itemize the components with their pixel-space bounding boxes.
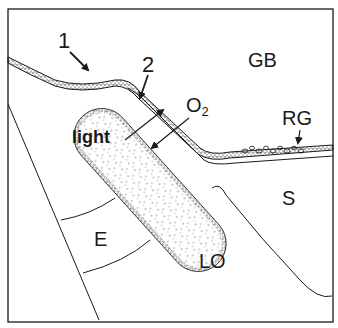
label-o2-subscript: 2 — [202, 104, 209, 119]
label-1-pointer — [70, 52, 88, 70]
label-s: S — [282, 187, 295, 209]
label-rg: RG — [282, 107, 312, 129]
light-organ-diagram: 1 2 GB RG light O2 S E LO — [0, 0, 338, 328]
frame-border — [8, 9, 333, 322]
s-region-boundary — [212, 186, 332, 297]
label-lo: LO — [199, 250, 226, 272]
label-gb: GB — [248, 49, 277, 71]
label-2-pointer — [140, 75, 148, 98]
label-o2-main: O — [186, 94, 202, 116]
e-region-upper-curve — [61, 198, 115, 220]
rg-pointer — [298, 130, 300, 143]
label-1: 1 — [58, 28, 70, 53]
label-2: 2 — [142, 52, 154, 77]
label-e: E — [94, 228, 107, 250]
light-emission-arrow — [125, 110, 163, 140]
label-light: light — [72, 127, 110, 147]
label-o2: O2 — [186, 94, 209, 119]
